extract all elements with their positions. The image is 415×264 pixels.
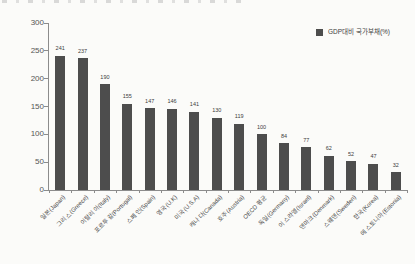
bar-value-label: 52	[348, 152, 354, 158]
bar-value-label: 147	[145, 99, 154, 105]
y-tick-label: 250	[31, 47, 44, 55]
y-tick	[44, 134, 48, 135]
bar-value-label: 155	[123, 94, 132, 100]
bar	[167, 109, 177, 190]
bar	[78, 58, 88, 190]
bar	[391, 172, 401, 190]
bar	[324, 156, 334, 191]
bar-value-label: 100	[257, 125, 266, 131]
y-tick-label: 300	[31, 19, 44, 27]
bar	[122, 104, 132, 190]
y-tick-label: 50	[35, 158, 44, 166]
bar	[55, 56, 65, 190]
y-tick	[44, 23, 48, 24]
y-tick	[44, 78, 48, 79]
bar	[234, 124, 244, 190]
x-category-label: 에스토니아(Estonia)	[360, 194, 402, 236]
bar-value-label: 119	[235, 114, 244, 120]
bar-value-label: 130	[212, 108, 221, 114]
bar-value-label: 84	[281, 134, 287, 140]
cropped-text-remnant	[2, 0, 248, 3]
y-tick	[44, 162, 48, 163]
bar-value-label: 32	[393, 163, 399, 169]
bar	[368, 164, 378, 190]
bar	[189, 112, 199, 190]
y-tick-label: 0	[40, 186, 44, 194]
bar-value-label: 141	[190, 102, 199, 108]
bar-value-label: 146	[167, 99, 176, 105]
bar-value-label: 62	[326, 146, 332, 152]
bar	[346, 161, 356, 190]
bar	[100, 84, 110, 190]
bar	[279, 143, 289, 190]
y-tick-label: 200	[31, 75, 44, 83]
bar-value-label: 190	[100, 75, 109, 81]
y-tick	[44, 106, 48, 107]
y-tick	[44, 190, 48, 191]
bar	[145, 108, 155, 190]
x-axis-labels: 일본(Japan)그리스(Greece)이탈리아(Italy)포르투갈(Port…	[48, 192, 406, 264]
plot-area: 0501001502002503002412371901551471461411…	[48, 23, 407, 191]
y-tick-label: 100	[31, 130, 44, 138]
y-tick-label: 150	[31, 103, 44, 111]
chart-frame: GDP대비 국가부채(%) 05010015020025030024123719…	[0, 0, 415, 264]
bar	[301, 147, 311, 190]
bar-value-label: 77	[303, 138, 309, 144]
x-tick	[407, 190, 408, 193]
y-tick	[44, 50, 48, 51]
bar	[212, 118, 222, 190]
bar-value-label: 241	[56, 46, 65, 52]
bar	[257, 134, 267, 190]
bar-value-label: 47	[370, 154, 376, 160]
bar-value-label: 237	[78, 49, 87, 55]
